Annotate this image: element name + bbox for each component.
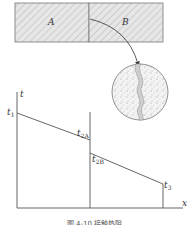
- diagram-canvas: [0, 0, 189, 225]
- figure-caption: 图 4-10 接触热阻: [0, 218, 189, 225]
- t2b-label: t2B: [92, 155, 104, 165]
- y-axis-label: t: [20, 90, 24, 99]
- t2b-sub: 2B: [96, 158, 104, 165]
- x-axis-label: x: [182, 199, 187, 208]
- t1-sub: 1: [11, 111, 15, 118]
- block-b-label: B: [122, 18, 129, 27]
- block-a-label: A: [48, 18, 55, 27]
- t2a-sub: 2A: [81, 132, 89, 139]
- t2a-label: t2A: [77, 129, 89, 139]
- magnified-interface: [112, 64, 168, 120]
- t3-sub: 3: [168, 184, 172, 191]
- t3-label: t3: [164, 181, 171, 191]
- t1-label: t1: [7, 108, 14, 118]
